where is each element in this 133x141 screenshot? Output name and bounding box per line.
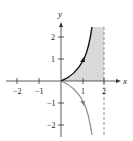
y-tick-label: 1 <box>51 55 55 64</box>
x-axis-arrow-icon <box>116 79 121 83</box>
shaded-region <box>61 27 104 81</box>
x-tick-label: −2 <box>13 87 22 96</box>
y-tick-label: −2 <box>47 121 56 130</box>
y-axis-label: y <box>57 9 62 19</box>
x-tick-label: −1 <box>35 87 44 96</box>
parametric-plot: −2 −1 1 2 2 1 −1 −2 x y <box>0 0 133 141</box>
x-axis-label: x <box>122 76 127 86</box>
x-tick-label: 1 <box>81 87 85 96</box>
x-tick-label: 2 <box>102 87 106 96</box>
lower-curve <box>61 81 92 135</box>
lower-direction-arrow-icon <box>80 101 85 106</box>
y-tick-label: −1 <box>47 99 56 108</box>
y-tick-label: 2 <box>51 33 55 42</box>
y-axis-arrow-icon <box>59 22 63 27</box>
